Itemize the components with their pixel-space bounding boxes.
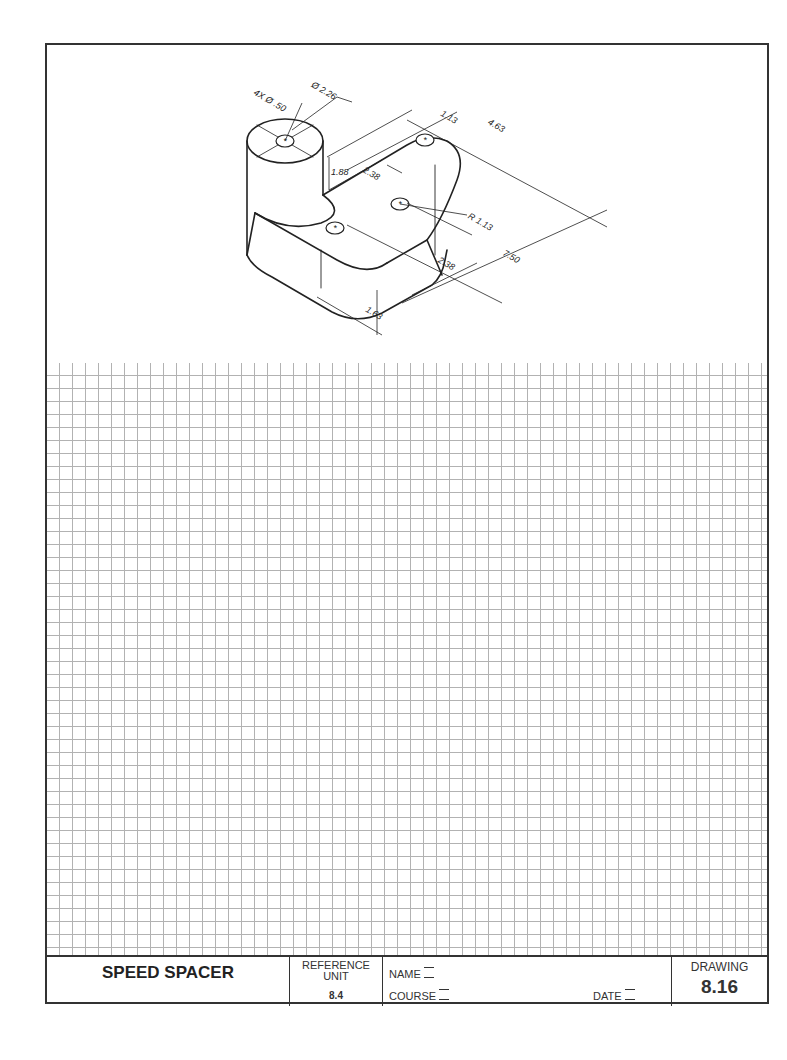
drawing-sheet: **** 4X Ø .50 Ø 2.26 1.88 1.13 4. <box>45 43 769 1004</box>
isometric-part-drawing: **** 4X Ø .50 Ø 2.26 1.88 1.13 4. <box>47 45 767 363</box>
drawing-number: 8.16 <box>672 976 767 998</box>
course-label: COURSE <box>389 990 436 1002</box>
student-info-cell: NAME COURSE DATE <box>383 957 672 1006</box>
reference-value: 8.4 <box>290 990 382 1001</box>
hole-callout-dim: 4X Ø .50 <box>252 87 288 113</box>
hole-spacing-b-dim: 2.38 <box>435 254 456 272</box>
base-height-dim: 1.63 <box>364 304 384 321</box>
title-block: SPEED SPACER REFERENCE UNIT 8.4 NAME COU… <box>47 955 767 1006</box>
edge-offset-dim: 1.13 <box>439 108 459 125</box>
name-field[interactable]: NAME <box>389 968 434 980</box>
name-label: NAME <box>389 968 421 980</box>
date-label: DATE <box>593 990 622 1002</box>
width-dim: 4.63 <box>486 117 506 134</box>
reference-unit-cell: REFERENCE UNIT 8.4 <box>290 957 383 1006</box>
boss-diameter-dim: Ø 2.26 <box>309 79 338 102</box>
drawing-label: DRAWING <box>672 960 767 974</box>
boss-height-dim: 1.88 <box>331 167 349 177</box>
radius-dim: R 1.13 <box>466 211 494 233</box>
part-name: SPEED SPACER <box>47 957 290 1006</box>
svg-text:*: * <box>333 223 337 233</box>
course-field[interactable]: COURSE <box>389 990 449 1002</box>
hole-spacing-a-dim: 2.38 <box>360 164 381 182</box>
reference-label-line2: UNIT <box>323 970 349 982</box>
sketch-grid <box>47 363 767 955</box>
date-field[interactable]: DATE <box>593 990 635 1002</box>
drawing-number-cell: DRAWING 8.16 <box>672 957 767 1006</box>
svg-text:*: * <box>423 135 427 145</box>
